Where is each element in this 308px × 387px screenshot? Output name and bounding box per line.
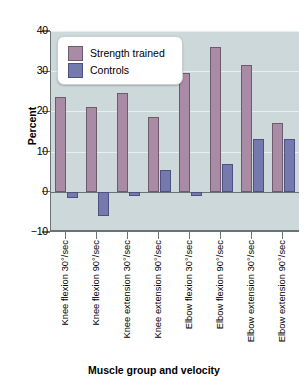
x-tick-label-wrap: Knee flexion 90°/sec	[89, 242, 103, 354]
legend-label-strength-trained: Strength trained	[90, 48, 165, 59]
x-tick-label-wrap: Elbow flexion 90°/sec	[213, 242, 227, 354]
strength-trained-swatch	[68, 46, 83, 61]
x-tick-label: Knee extension 30°/sec	[122, 240, 132, 352]
x-tick-1	[96, 232, 97, 239]
x-tick-label-wrap: Elbow flexion 30°/sec	[182, 242, 196, 354]
y-tick-label-30: 30	[22, 65, 48, 76]
bar-controls	[253, 139, 264, 192]
bar-controls	[160, 170, 171, 192]
bar-strength-trained	[55, 97, 66, 191]
bar-controls	[191, 192, 202, 196]
x-tick-2	[127, 232, 128, 239]
x-tick-label: Elbow extension 90°/sec	[277, 240, 287, 352]
bar-strength-trained	[86, 107, 97, 191]
bar-controls	[67, 192, 78, 198]
x-tick-label: Elbow extension 30°/sec	[246, 240, 256, 352]
x-tick-label: Knee flexion 90°/sec	[91, 240, 101, 352]
bar-strength-trained	[117, 93, 128, 192]
legend-item-controls: Controls	[68, 63, 129, 77]
x-tick-label: Knee extension 90°/sec	[153, 240, 163, 352]
x-axis-title: Muscle group and velocity	[0, 364, 308, 376]
bar-strength-trained	[148, 117, 159, 191]
bar-controls	[222, 164, 233, 192]
bar-group	[240, 31, 271, 232]
x-tick-4	[189, 232, 190, 239]
bar-chart-figure: 403020100−10 Percent Strength trained Co…	[0, 0, 308, 387]
x-tick-label-wrap: Elbow extension 30°/sec	[244, 242, 258, 354]
bar-group	[271, 31, 302, 232]
x-tick-3	[158, 232, 159, 239]
x-tick-7	[282, 232, 283, 239]
x-tick-label-wrap: Elbow extension 90°/sec	[275, 242, 289, 354]
x-tick-5	[220, 232, 221, 239]
bar-controls	[129, 192, 140, 196]
legend-label-controls: Controls	[90, 65, 129, 76]
x-tick-label-wrap: Knee flexion 30°/sec	[58, 242, 72, 354]
controls-swatch	[68, 63, 83, 78]
bar-controls	[284, 139, 295, 192]
bar-group	[209, 31, 240, 232]
bar-strength-trained	[241, 65, 252, 192]
x-tick-label-wrap: Knee extension 90°/sec	[151, 242, 165, 354]
y-tick-label-0: 0	[22, 186, 48, 197]
x-tick-label: Elbow flexion 30°/sec	[184, 240, 194, 352]
legend: Strength trained Controls	[57, 36, 183, 85]
x-tick-6	[251, 232, 252, 239]
bar-strength-trained	[210, 47, 221, 192]
y-axis-title: Percent	[26, 86, 38, 166]
x-tick-0	[65, 232, 66, 239]
x-tick-label: Elbow flexion 90°/sec	[215, 240, 225, 352]
x-tick-label-wrap: Knee extension 30°/sec	[120, 242, 134, 354]
bar-controls	[98, 192, 109, 216]
bar-strength-trained	[179, 73, 190, 192]
y-tick-label--10: −10	[22, 226, 48, 237]
y-tick-label-40: 40	[22, 25, 48, 36]
bar-strength-trained	[272, 123, 283, 192]
x-tick-label: Knee flexion 30°/sec	[60, 240, 70, 352]
legend-item-strength-trained: Strength trained	[68, 46, 165, 60]
